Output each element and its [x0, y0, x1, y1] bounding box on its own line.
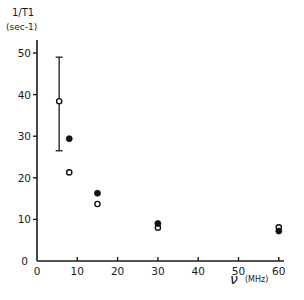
y-tick-label: 50	[18, 47, 31, 59]
filled-data-point	[276, 228, 282, 234]
y-tick-label: 0	[21, 255, 28, 267]
open-data-point	[57, 99, 62, 104]
filled-data-point	[94, 190, 100, 196]
y-tick-label: 20	[18, 172, 31, 184]
x-ticks: 0102030405060	[34, 257, 286, 277]
filled-data-point	[155, 221, 161, 227]
x-tick-label: 10	[71, 265, 84, 277]
x-axis-unit: (MHz)	[245, 275, 268, 284]
x-tick-label: 20	[111, 265, 124, 277]
filled-data-point	[66, 136, 72, 142]
x-axis-symbol: ν	[230, 271, 238, 287]
y-axis-label-line2: (sec-1)	[6, 22, 37, 32]
y-tick-label: 40	[18, 89, 31, 101]
x-tick-label: 30	[151, 265, 164, 277]
data-points	[57, 99, 282, 234]
x-tick-label: 0	[34, 265, 41, 277]
y-ticks: 01020304050	[18, 47, 37, 267]
x-tick-label: 60	[272, 265, 285, 277]
open-data-point	[67, 170, 72, 175]
x-tick-label: 40	[192, 265, 205, 277]
y-tick-label: 30	[18, 130, 31, 142]
open-data-point	[95, 201, 100, 206]
y-tick-label: 10	[18, 213, 31, 225]
y-axis-label-line1: 1/T1	[12, 7, 34, 18]
chart: 01020304050 0102030405060 1/T1 (sec-1) ν…	[0, 0, 304, 300]
